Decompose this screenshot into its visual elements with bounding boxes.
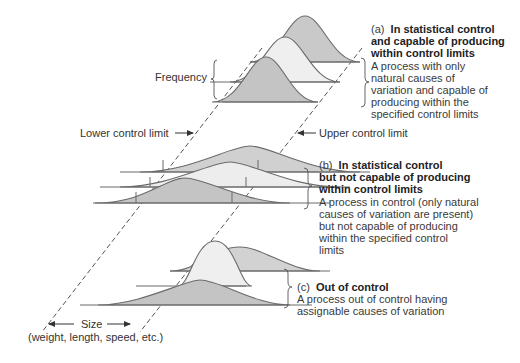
panel-c-brace — [284, 269, 292, 308]
panel-c-body-line: assignable causes of variation — [297, 305, 447, 317]
panel-c-title-line: Out of control — [316, 281, 389, 293]
panel-c-curves — [80, 241, 330, 305]
size-examples-label: (weight, length, speed, etc.) — [28, 331, 163, 343]
panel-a-description: (a) In statistical control and capable o… — [371, 23, 505, 121]
panel-a-curves — [210, 16, 360, 102]
panel-a-title-line: and capable of producing — [371, 35, 505, 47]
panel-b-body-line: limits — [319, 244, 479, 256]
panel-a-tag: (a) — [371, 23, 384, 35]
panel-b-title-line: but not capable of producing — [319, 171, 479, 183]
panel-a-body-line: natural causes of — [371, 72, 505, 84]
panel-a-title-line: In statistical control — [391, 23, 495, 35]
panel-a-body-line: specified control limits — [371, 108, 505, 120]
lower-control-limit-label: Lower control limit — [80, 127, 169, 139]
size-label: Size — [81, 318, 102, 330]
panel-b-body-line: within the specified control — [319, 232, 479, 244]
panel-b-body-line: but not capable of producing — [319, 220, 479, 232]
panel-b-body-line: A process in control (only natural — [319, 196, 479, 208]
panel-c-description: (c) Out of control A process out of cont… — [297, 281, 447, 318]
panel-b-title-line: within control limits — [319, 183, 479, 195]
panel-c-body-line: A process out of control having — [297, 293, 447, 305]
panel-c-tag: (c) — [297, 281, 310, 293]
panel-a-body-line: A process with only — [371, 60, 505, 72]
panel-a-brace — [361, 58, 369, 107]
upper-control-limit-label: Upper control limit — [319, 127, 408, 139]
frequency-brace — [211, 60, 217, 99]
panel-a-title-line: within control limits — [371, 47, 505, 59]
panel-b-description: (b) In statistical control but not capab… — [319, 159, 479, 257]
panel-b-title-line: In statistical control — [339, 159, 443, 171]
panel-b-body-line: causes of variation are present) — [319, 208, 479, 220]
panel-b-tag: (b) — [319, 159, 332, 171]
frequency-label: Frequency — [155, 71, 207, 83]
panel-a-body-line: producing within the — [371, 96, 505, 108]
panel-a-body-line: variation and capable of — [371, 84, 505, 96]
